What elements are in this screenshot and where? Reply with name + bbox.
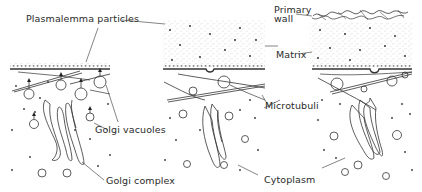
label-plasmalemma-particles: Plasmalemma particles [26, 14, 139, 24]
golgi-complex-1 [43, 100, 84, 164]
golgi-complex-2 [203, 104, 226, 167]
label-golgi-vacuoles: Golgi vacuoles [95, 125, 166, 135]
panel-3 [296, 10, 413, 180]
label-primary-wall-line2: wall [274, 13, 293, 24]
matrix-region-3 [310, 22, 412, 68]
label-primary-wall: Primary wall [274, 5, 311, 23]
panel-2 [163, 20, 280, 175]
label-cytoplasm: Cytoplasm [264, 175, 315, 185]
label-matrix: Matrix [276, 50, 307, 60]
cell-wall-diagram: Plasmalemma particles Primary wall Matri… [0, 0, 422, 192]
label-microtubuli: Microtubuli [265, 101, 319, 111]
label-golgi-complex: Golgi complex [106, 176, 175, 186]
plasmalemma-particles-band [10, 62, 110, 66]
panel-1 [10, 28, 118, 180]
matrix-region [163, 20, 265, 68]
golgi-complex-3 [350, 98, 383, 159]
